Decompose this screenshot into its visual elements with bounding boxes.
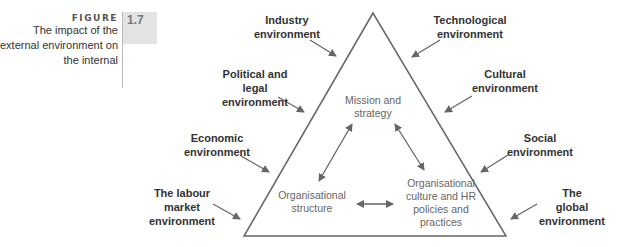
label-social: Socialenvironment xyxy=(495,131,585,159)
label-mission-strategy: Mission andstrategy xyxy=(333,94,413,120)
arrow-cultural xyxy=(445,96,472,112)
label-technological: Technologicalenvironment xyxy=(420,13,520,41)
label-cultural: Culturalenvironment xyxy=(460,67,550,95)
label-labour: The labourmarketenvironment xyxy=(137,186,227,228)
label-political: Political andlegalenvironment xyxy=(210,67,300,109)
arrow-industry xyxy=(310,40,336,56)
arrow-mission-culture xyxy=(395,124,424,170)
label-industry: Industryenvironment xyxy=(242,13,332,41)
label-organisational-culture: Organisationalculture and HRpolicies and… xyxy=(396,177,486,229)
label-global: Theglobalenvironment xyxy=(527,186,617,228)
arrow-mission-structure xyxy=(319,124,352,181)
label-economic: Economicenvironment xyxy=(172,131,262,159)
label-organisational-structure: Organisationalstructure xyxy=(272,189,352,215)
arrow-technological xyxy=(412,40,440,57)
